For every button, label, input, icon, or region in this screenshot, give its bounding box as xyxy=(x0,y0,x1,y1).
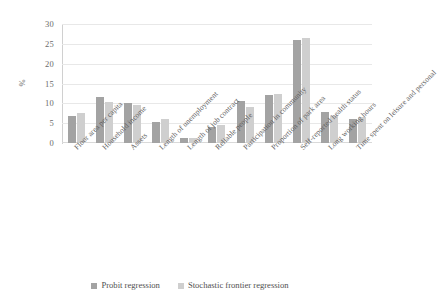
bar xyxy=(152,122,160,143)
bar xyxy=(68,116,76,143)
legend-item[interactable]: Stochastic frontier regression xyxy=(178,281,289,290)
legend-swatch xyxy=(178,283,184,289)
chart-legend: Probit regressionStochastic frontier reg… xyxy=(0,281,380,290)
y-axis-tick-label: 25 xyxy=(14,40,54,49)
y-axis-tick-label: 15 xyxy=(14,80,54,89)
legend-label: Stochastic frontier regression xyxy=(188,281,289,290)
y-axis-tick-label: 30 xyxy=(14,20,54,29)
y-axis-tick-label: 5 xyxy=(14,119,54,128)
bar-group xyxy=(147,24,175,143)
y-axis-tick-label: 10 xyxy=(14,99,54,108)
y-axis-tick-label: 20 xyxy=(14,60,54,69)
legend-item[interactable]: Probit regression xyxy=(91,281,159,290)
bar-group xyxy=(62,24,90,143)
legend-swatch xyxy=(91,283,97,289)
legend-label: Probit regression xyxy=(101,281,159,290)
y-axis-tick-label: 0 xyxy=(14,139,54,148)
x-axis-category-labels: Floor area per capitaHousehold incomeAss… xyxy=(62,146,372,266)
